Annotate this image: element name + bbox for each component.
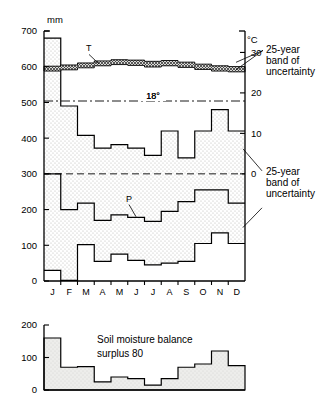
month-label-7: A [167,287,173,297]
y2-tick-label-30: 30 [251,47,262,58]
reference-line-label-18-top: 18° [146,91,160,101]
month-label-6: J [151,287,156,297]
month-label-1: F [66,287,72,297]
left-axis-unit: mm [47,14,63,25]
temp-band-note-line-1: band of [266,55,300,66]
temp-band-note-line-0: 25-year [266,44,301,55]
y-tick-label-0: 0 [32,275,37,286]
leader-precip-note-b [243,208,262,228]
precip-band-note-line-1: band of [266,177,300,188]
month-label-8: S [183,287,189,297]
month-label-11: D [233,287,240,297]
precipitation-band-fill [44,38,245,280]
soil-panel-title-line2: surplus 80 [97,348,144,359]
y-tick-label-500: 500 [21,97,37,108]
y2-tick-label-10: 10 [251,128,262,139]
y-tick-label-400: 400 [21,133,37,144]
month-label-10: N [217,287,224,297]
y-tick-label-700: 700 [21,25,37,36]
month-label-3: A [100,287,106,297]
y2-tick-label-0: 0 [251,168,256,179]
climate-figure-svg: 0100200300400500600700mm0102030°CJFMAMJJ… [0,0,336,403]
series-label-temperature: T [86,43,92,53]
main-climate-panel [44,31,263,285]
soil-y-tick-label-100: 100 [21,352,37,363]
temperature-band [44,60,245,72]
temp-band-note-line-2: uncertainty [266,66,315,77]
month-label-2: M [82,287,90,297]
climate-figure: 0100200300400500600700mm0102030°CJFMAMJJ… [0,0,336,403]
y-tick-label-100: 100 [21,240,37,251]
precip-band-note-line-0: 25-year [266,166,301,177]
month-label-5: J [134,287,139,297]
right-axis-unit: °C [247,34,258,45]
month-label-4: M [116,287,124,297]
y2-tick-label-20: 20 [251,87,262,98]
month-label-0: J [50,287,55,297]
y-tick-label-600: 600 [21,61,37,72]
soil-panel-title-line1: Soil moisture balance [97,334,193,345]
series-label-precipitation: P [126,194,132,204]
month-label-9: O [200,287,207,297]
soil-y-tick-label-200: 200 [21,319,37,330]
soil-y-tick-label-0: 0 [32,384,37,395]
y-tick-label-300: 300 [21,168,37,179]
soil-moisture-area [44,338,245,390]
precip-band-note-line-2: uncertainty [266,188,315,199]
y-tick-label-200: 200 [21,204,37,215]
